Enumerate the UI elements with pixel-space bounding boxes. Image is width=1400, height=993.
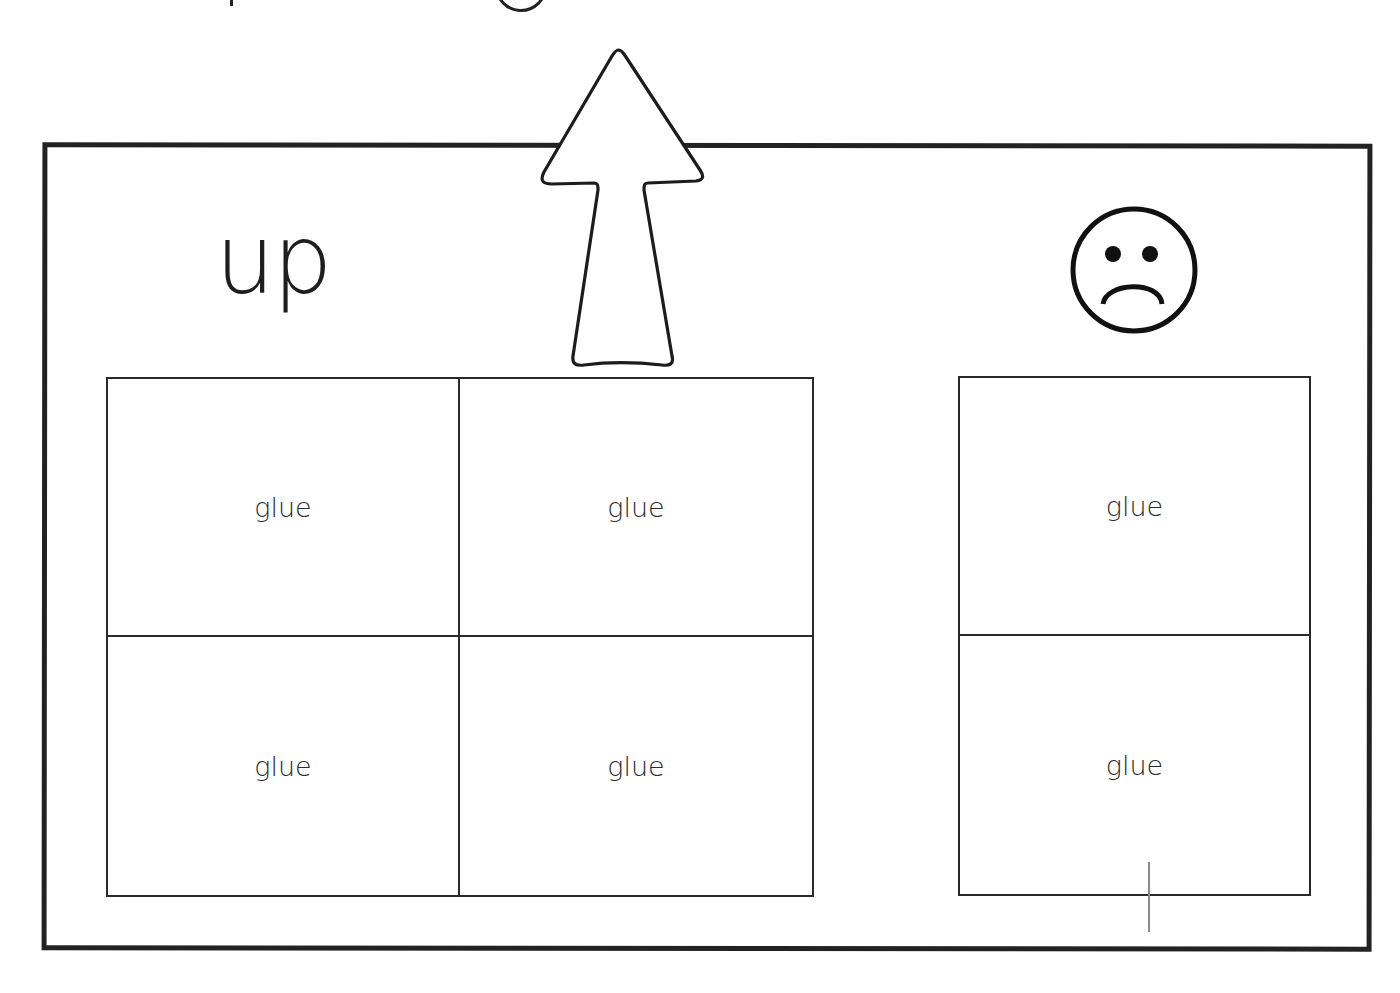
glue-grid-right: glue glue xyxy=(958,376,1311,896)
stray-mark xyxy=(1148,862,1150,932)
cropped-circle-icon xyxy=(495,0,547,12)
glue-cell: glue xyxy=(460,637,812,895)
glue-cell: glue xyxy=(108,379,460,637)
cropped-text-fragment xyxy=(230,0,233,6)
up-arrow-icon xyxy=(536,44,706,370)
target-word: up xyxy=(215,205,330,315)
glue-cell: glue xyxy=(960,378,1309,636)
glue-cell: glue xyxy=(108,637,460,895)
glue-cell: glue xyxy=(960,636,1309,894)
glue-cell: glue xyxy=(460,379,812,637)
sad-face-icon xyxy=(1066,202,1202,338)
glue-grid-left: glue glue glue glue xyxy=(106,377,814,897)
